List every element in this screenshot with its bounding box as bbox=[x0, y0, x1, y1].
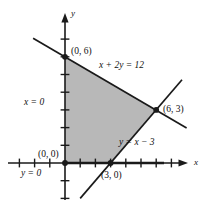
vertex-dot-6-3 bbox=[153, 107, 159, 113]
constraint-label-y-equals-x-minus-3: y = x − 3 bbox=[119, 138, 155, 148]
constraint-label-y-equals-0: y = 0 bbox=[21, 169, 41, 179]
vertex-label-6-3: (6, 3) bbox=[163, 105, 184, 115]
vertex-dot-3-0 bbox=[108, 160, 114, 166]
constraint-label-x-plus-2y: x + 2y = 12 bbox=[99, 61, 144, 71]
y-axis-arrowhead bbox=[61, 13, 68, 23]
vertex-label-0-0: (0, 0) bbox=[38, 150, 59, 160]
vertex-dot-0-6 bbox=[62, 54, 68, 60]
vertex-label-0-6: (0, 6) bbox=[71, 47, 92, 57]
vertex-label-3-0: (3, 0) bbox=[101, 171, 122, 181]
vertex-dot-0-0 bbox=[62, 160, 68, 166]
x-axis-arrowhead bbox=[179, 159, 189, 166]
constraint-label-x-equals-0: x = 0 bbox=[24, 98, 44, 108]
linear-programming-graph: x y (0, 6) (6, 3) (0, 0) (3, 0) x + 2y =… bbox=[0, 0, 208, 214]
x-axis-label: x bbox=[194, 158, 198, 167]
y-axis-label: y bbox=[71, 9, 75, 18]
